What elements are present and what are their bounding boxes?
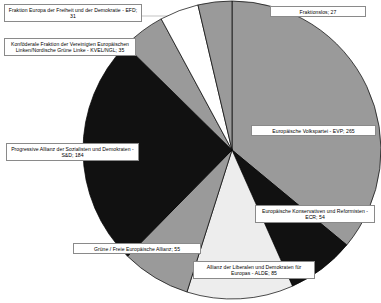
pie-label-sd: Progressive Allianz der Sozialisten und … (6, 143, 139, 161)
pie-label-alde: Allianz der Liberalen und Demokraten für… (193, 261, 315, 279)
pie-label-ecr: Europäische Konservativen und Reformiste… (255, 205, 375, 223)
pie-chart: Fraktion Europa der Freiheit und der Dem… (0, 0, 381, 303)
pie-label-efd: Fraktion Europa der Freiheit und der Dem… (4, 4, 142, 22)
pie-label-fraktionslos: Fraktionslos; 27 (270, 6, 366, 17)
pie-label-evp: Europäische Volkspartei - EVP; 265 (251, 125, 376, 136)
pie-label-gruene-efa: Grüne / Freie Europäische Allianz; 55 (73, 243, 201, 254)
pie-label-kvel-ngl: Konföderale Fraktion der Vereinigten Eur… (4, 38, 136, 56)
